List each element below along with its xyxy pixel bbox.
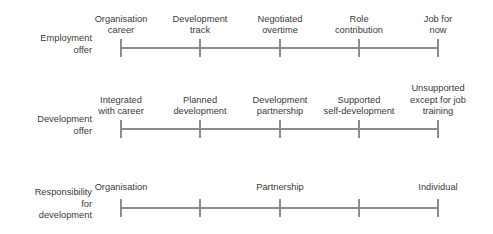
tick-label-text: Unsupported except for job training (386, 83, 490, 118)
tick-label: Organisation (69, 174, 173, 194)
tick-label-text: Partnership (228, 182, 332, 194)
tick-label: Job for now (386, 5, 490, 37)
scale-axis-responsibility-for-development (121, 207, 438, 208)
axis-tick (199, 199, 201, 217)
scale-axis-employment-offer (121, 47, 438, 48)
tick-label: Individual (386, 174, 490, 194)
axis-tick (358, 39, 360, 57)
scale-axis-development-offer (121, 128, 438, 129)
tick-label: Partnership (228, 174, 332, 194)
axis-tick (120, 39, 122, 57)
tick-label-text: Individual (386, 182, 490, 194)
tick-label-text: Organisation (69, 182, 173, 194)
axis-tick (437, 120, 439, 138)
axis-tick (120, 199, 122, 217)
axis-tick (279, 199, 281, 217)
scales-diagram: Employment offerOrganisation careerDevel… (0, 0, 493, 234)
axis-tick (120, 120, 122, 138)
axis-tick (437, 39, 439, 57)
axis-tick (437, 199, 439, 217)
axis-tick (199, 120, 201, 138)
tick-label-text: Job for now (386, 14, 490, 37)
axis-tick (199, 39, 201, 57)
axis-tick (279, 120, 281, 138)
axis-tick (279, 39, 281, 57)
axis-tick (358, 120, 360, 138)
tick-label: Unsupported except for job training (386, 82, 490, 118)
axis-tick (358, 199, 360, 217)
